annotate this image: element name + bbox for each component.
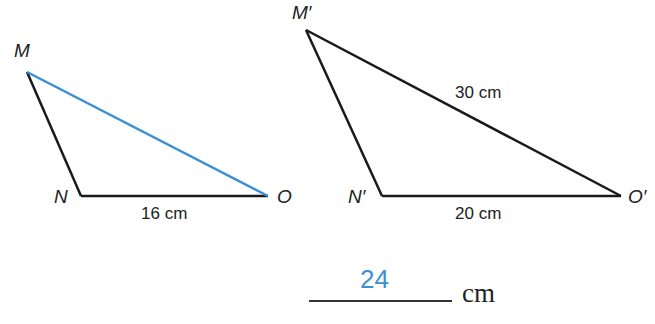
triangle-mno (27, 72, 268, 196)
side-mo-prime (306, 30, 621, 196)
side-mn-prime (306, 30, 382, 196)
vertex-label-m-prime: M′ (292, 2, 311, 24)
vertex-label-o: O (277, 186, 292, 208)
side-mn (27, 72, 81, 196)
side-mo-highlighted (27, 72, 268, 196)
vertex-label-n: N (54, 186, 68, 208)
answer-value: 24 (360, 264, 389, 295)
answer-blank-line (309, 300, 452, 302)
vertex-label-m: M (14, 40, 30, 62)
vertex-label-o-prime: O′ (628, 186, 646, 208)
measure-mo-prime: 30 cm (455, 83, 501, 103)
measure-no-prime: 20 cm (455, 204, 501, 224)
answer-unit: cm (462, 278, 495, 309)
triangle-mno-prime (306, 30, 621, 196)
diagram-canvas (0, 0, 655, 324)
vertex-label-n-prime: N′ (348, 186, 365, 208)
measure-no: 16 cm (141, 204, 187, 224)
